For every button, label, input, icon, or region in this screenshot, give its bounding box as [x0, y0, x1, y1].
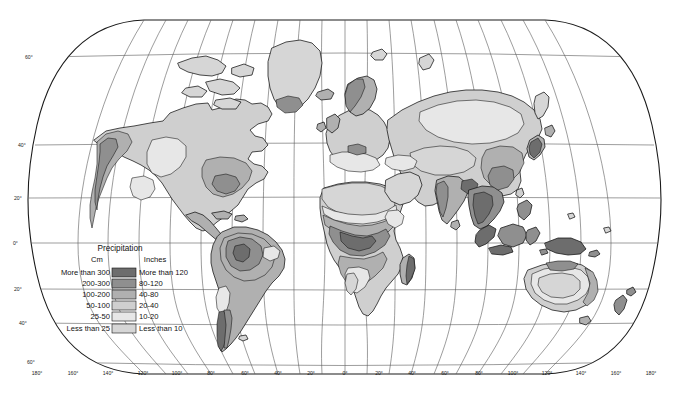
legend-cm-label: 100-200	[82, 290, 110, 299]
legend-swatch	[112, 268, 136, 277]
lon-label-60e: 60°	[441, 370, 449, 376]
legend-row: 100-200 40-80	[82, 290, 158, 299]
legend-header-inches: Inches	[144, 255, 167, 264]
lon-label-120e: 120°	[542, 370, 553, 376]
lon-label-160w: 160°	[68, 370, 79, 376]
legend-row: 50-100 20-40	[86, 301, 158, 310]
lon-label-20e: 20°	[375, 370, 383, 376]
legend-row: 25-50 10-20	[91, 312, 159, 321]
lon-label-140w: 140°	[103, 370, 114, 376]
legend-row: Less than 25 Less than 10	[67, 324, 183, 333]
lon-label-140e: 140°	[576, 370, 587, 376]
lon-label-80e: 80°	[475, 370, 483, 376]
legend-row: More than 300 More than 120	[61, 268, 188, 277]
lon-label-160e: 160°	[611, 370, 622, 376]
lon-label-180e: 180°	[646, 370, 657, 376]
legend-cm-label: 50-100	[86, 301, 110, 310]
lat-label-40n: 40°	[18, 142, 26, 148]
lon-label-180w: 180°	[32, 370, 43, 376]
legend-cm-label: 25-50	[91, 312, 110, 321]
lon-label-40e: 40°	[408, 370, 416, 376]
lon-label-60w: 60°	[241, 370, 249, 376]
legend-swatch	[112, 301, 136, 310]
lat-label-20s: 20°	[14, 286, 22, 292]
legend-cm-label: More than 300	[61, 268, 110, 277]
legend-inches-label: 40-80	[139, 290, 158, 299]
legend-header-cm: Cm	[91, 255, 103, 264]
legend-title: Precipitation	[97, 244, 143, 253]
antarctic-coast-fragment	[228, 384, 300, 402]
legend-cm-label: 200-300	[82, 279, 110, 288]
legend-inches-label: 80-120	[139, 279, 163, 288]
lon-label-100w: 100°	[172, 370, 183, 376]
world-precipitation-map: 60° 40° 20° 0° 20° 40° 60° 180° 160° 140…	[0, 0, 689, 413]
legend-inches-label: 20-40	[139, 301, 158, 310]
lon-label-20w: 20°	[307, 370, 315, 376]
legend-swatch	[112, 290, 136, 299]
legend-swatch	[112, 312, 136, 321]
lon-label-80w: 80°	[207, 370, 215, 376]
lon-label-100e: 100°	[508, 370, 519, 376]
legend-inches-label: 10-20	[139, 312, 158, 321]
lon-label-0: 0°	[343, 370, 348, 376]
legend-swatch	[112, 324, 136, 333]
lat-label-40s: 40°	[19, 320, 27, 326]
lat-label-20n: 20°	[14, 195, 22, 201]
lat-label-0: 0°	[13, 240, 18, 246]
lat-label-60n: 60°	[25, 54, 33, 60]
map-svg-canvas: 60° 40° 20° 0° 20° 40° 60° 180° 160° 140…	[0, 0, 689, 413]
lon-label-120w: 120°	[138, 370, 149, 376]
legend-swatch	[112, 279, 136, 288]
legend-inches-label: Less than 10	[139, 324, 183, 333]
antarctic-fringe	[228, 381, 528, 403]
legend-inches-label: More than 120	[139, 268, 188, 277]
lat-label-60s: 60°	[27, 359, 35, 365]
legend-row: 200-300 80-120	[82, 279, 163, 288]
lon-label-40w: 40°	[274, 370, 282, 376]
antarctic-coast-fragment-east	[380, 381, 528, 403]
legend-cm-label: Less than 25	[67, 324, 111, 333]
